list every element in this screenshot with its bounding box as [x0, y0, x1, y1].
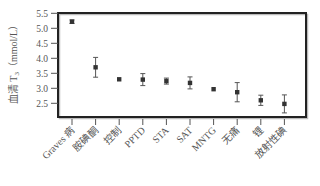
x-tick-label: Graves 病 [39, 124, 76, 161]
data-point [282, 95, 287, 113]
data-point [258, 95, 263, 105]
y-tick-label: 4.0 [36, 54, 48, 64]
y-axis-title: 血清 T3（mmol/L） [7, 20, 21, 104]
y-tick-label: 5.0 [36, 24, 48, 34]
data-point [117, 77, 121, 81]
data-point [93, 57, 98, 77]
x-axis: Graves 病胺碘酮控制PPTDSTASATMNTG无痛锂放射性碘 [39, 119, 289, 161]
data-point [211, 87, 215, 91]
x-tick-label: PPTD [122, 125, 147, 150]
y-tick-label: 5.5 [36, 9, 48, 19]
x-tick-label: STA [150, 124, 171, 145]
x-tick-label: SAT [174, 125, 194, 145]
chart: 2.53.03.54.04.55.05.5 Graves 病胺碘酮控制PPTDS… [0, 0, 320, 186]
data-point [235, 83, 240, 102]
x-tick-label: 锂 [250, 125, 265, 140]
data-point [140, 74, 145, 86]
y-tick-label: 3.5 [36, 69, 48, 79]
data-point [188, 77, 193, 89]
x-tick-label: 胺碘酮 [70, 124, 100, 154]
y-tick-label: 4.5 [36, 39, 48, 49]
data-point [164, 78, 169, 84]
data-point [70, 20, 75, 24]
y-tick-label: 2.5 [36, 99, 48, 109]
data-points [70, 20, 287, 113]
x-tick-label: 控制 [101, 124, 124, 147]
y-axis: 2.53.03.54.04.55.05.5 [36, 9, 58, 109]
x-tick-label: MNTG [189, 125, 218, 154]
x-tick-label: 无痛 [219, 124, 242, 147]
y-tick-label: 3.0 [36, 84, 48, 94]
